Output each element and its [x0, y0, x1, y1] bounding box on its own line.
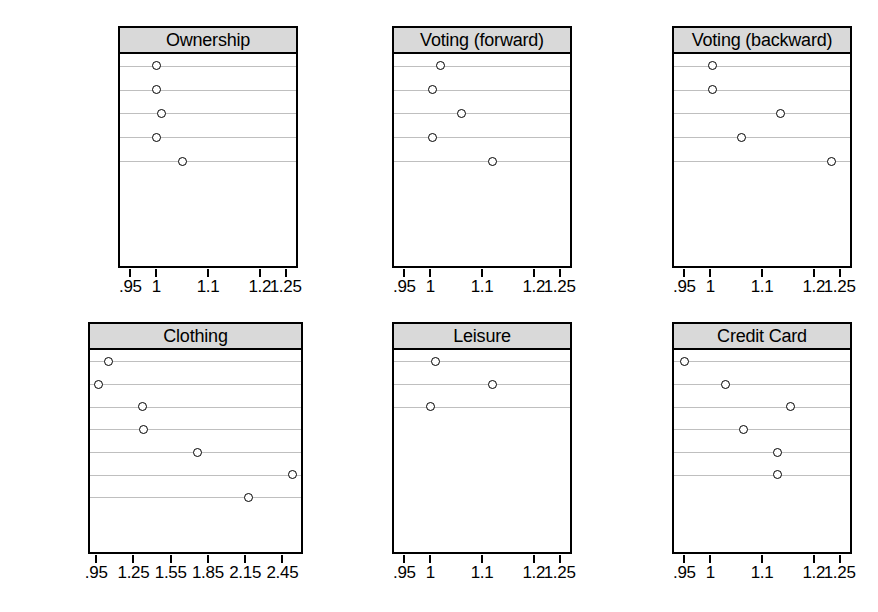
- plot-frame: Voting (backward): [672, 26, 852, 268]
- data-point: [457, 109, 466, 118]
- gridline: [120, 66, 296, 67]
- x-axis-tick: [709, 555, 711, 563]
- gridline: [394, 137, 570, 138]
- x-axis-tick: [132, 555, 134, 563]
- gridline: [120, 161, 296, 162]
- x-axis-tick-label: 1.2: [802, 278, 825, 295]
- panel-voting-backward: Prim08Pres04Prim04Pres00Prim00Voting (ba…: [672, 26, 852, 268]
- x-axis-tick-label: 1: [426, 278, 435, 295]
- x-axis-tick: [429, 269, 431, 277]
- x-axis-tick-label: 1.25: [270, 278, 302, 295]
- x-axis-tick: [170, 555, 172, 563]
- x-axis-tick-label: 1.25: [824, 564, 856, 581]
- gridline: [90, 475, 301, 476]
- data-point: [708, 85, 717, 94]
- plot-frame: Ownership: [118, 26, 298, 268]
- data-point: [773, 448, 782, 457]
- x-axis-tick-label: 1.1: [471, 564, 494, 581]
- data-point: [152, 61, 161, 70]
- gridline: [394, 384, 570, 385]
- panel-title: Clothing: [90, 324, 301, 350]
- x-axis-tick: [559, 269, 561, 277]
- data-point: [139, 425, 148, 434]
- plot-area: [120, 54, 296, 266]
- plot-frame: Voting (forward): [392, 26, 572, 268]
- x-axis-tick: [761, 555, 763, 563]
- x-axis-tick-label: 1.1: [197, 278, 220, 295]
- data-point: [827, 157, 836, 166]
- plot-area: [674, 350, 850, 552]
- gridline: [120, 137, 296, 138]
- data-point: [721, 380, 730, 389]
- data-point: [138, 402, 147, 411]
- gridline: [674, 66, 850, 67]
- x-axis-tick-label: 1.25: [544, 564, 576, 581]
- panel-clothing: CoatShirtPantsShoesSuitDressSkirtClothin…: [88, 322, 303, 554]
- x-axis-tick-label: 1.1: [471, 278, 494, 295]
- data-point: [431, 357, 440, 366]
- plot-area: [394, 350, 570, 552]
- data-point: [152, 133, 161, 142]
- x-axis-tick: [207, 555, 209, 563]
- gridline: [90, 361, 301, 362]
- gridline: [674, 161, 850, 162]
- gridline: [90, 497, 301, 498]
- x-axis-tick-label: .95: [393, 278, 416, 295]
- panel-voting-forward: Prim00Pres01Prim04Pres04Prim08Voting (fo…: [392, 26, 572, 268]
- x-axis-tick: [709, 269, 711, 277]
- x-axis-tick-label: 1: [152, 278, 161, 295]
- plot-area: [394, 54, 570, 266]
- x-axis-tick: [481, 555, 483, 563]
- x-axis-tick-label: 1.2: [522, 564, 545, 581]
- x-axis-tick-label: .95: [673, 564, 696, 581]
- gridline: [674, 384, 850, 385]
- x-axis-tick-label: 1.25: [117, 564, 149, 581]
- x-axis-tick-label: 1.2: [802, 564, 825, 581]
- gridline: [674, 90, 850, 91]
- data-point: [288, 470, 297, 479]
- data-point: [776, 109, 785, 118]
- x-axis-tick: [813, 555, 815, 563]
- panel-credit-card: MasterVisaDiscoverAmexGasStoreCredit Car…: [672, 322, 852, 554]
- x-axis-tick: [683, 555, 685, 563]
- plot-frame: Credit Card: [672, 322, 852, 554]
- panel-title: Voting (backward): [674, 28, 850, 54]
- gridline: [394, 113, 570, 114]
- x-axis-tick: [813, 269, 815, 277]
- data-point: [786, 402, 795, 411]
- data-point: [488, 380, 497, 389]
- x-axis-tick-label: .95: [119, 278, 142, 295]
- x-axis-tick-label: 1: [706, 564, 715, 581]
- plot-area: [674, 54, 850, 266]
- gridline: [90, 429, 301, 430]
- x-axis-tick: [403, 555, 405, 563]
- x-axis-tick-label: 1: [706, 278, 715, 295]
- data-point: [193, 448, 202, 457]
- x-axis-tick: [839, 555, 841, 563]
- panel-title: Voting (forward): [394, 28, 570, 54]
- x-axis-tick: [559, 555, 561, 563]
- data-point: [739, 425, 748, 434]
- x-axis-tick: [207, 269, 209, 277]
- x-axis-tick: [281, 555, 283, 563]
- gridline: [394, 161, 570, 162]
- x-axis-tick-label: 1.25: [824, 278, 856, 295]
- panel-leisure: MovieMuseumRestr.Leisure.9511.11.21.25: [392, 322, 572, 554]
- x-axis-tick-label: 1.25: [544, 278, 576, 295]
- data-point: [178, 157, 187, 166]
- x-axis-tick-label: 1.1: [751, 564, 774, 581]
- data-point: [737, 133, 746, 142]
- x-axis-tick: [761, 269, 763, 277]
- x-axis-tick-label: 2.15: [229, 564, 261, 581]
- gridline: [674, 137, 850, 138]
- gridline: [394, 90, 570, 91]
- panel-title: Leisure: [394, 324, 570, 350]
- gridline: [674, 429, 850, 430]
- x-axis-tick-label: .95: [85, 564, 108, 581]
- x-axis-tick: [285, 269, 287, 277]
- gridline: [120, 113, 296, 114]
- data-point: [152, 85, 161, 94]
- x-axis-tick-label: 1.55: [155, 564, 187, 581]
- data-point: [244, 493, 253, 502]
- data-point: [428, 85, 437, 94]
